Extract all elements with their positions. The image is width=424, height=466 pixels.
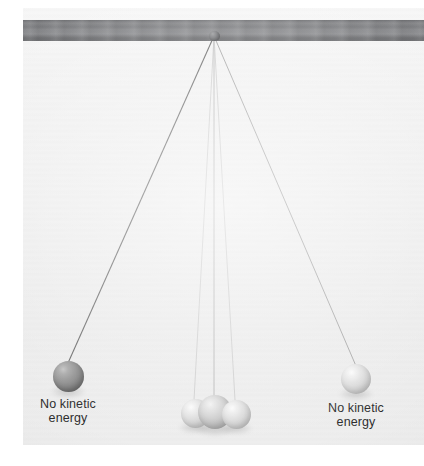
support-bar-grain <box>23 20 424 41</box>
ball-right-extreme <box>341 364 371 394</box>
label-no-kinetic-energy-right: No kinetic energy <box>310 401 402 429</box>
string-center-c <box>214 36 235 400</box>
pivot-knob <box>209 31 220 41</box>
ball-center-right <box>222 400 251 429</box>
label-no-kinetic-energy-left: No kinetic energy <box>23 397 114 425</box>
scanned-figure-area: No kinetic energy No kinetic energy <box>23 8 424 445</box>
string-right-extreme <box>214 36 356 366</box>
string-center-a <box>194 36 214 400</box>
pendulum-figure: No kinetic energy No kinetic energy <box>0 0 424 466</box>
ball-left-extreme <box>53 361 84 392</box>
string-left-extreme <box>68 36 214 363</box>
support-bar <box>23 20 424 41</box>
